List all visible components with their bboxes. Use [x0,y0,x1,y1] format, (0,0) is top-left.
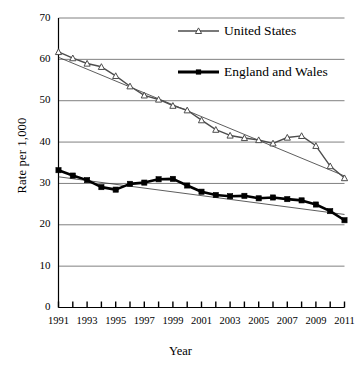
data-point-1-2007 [285,197,290,202]
y-axis-title: Rate per 1,000 [15,86,30,226]
legend-label-england-and-wales: England and Wales [224,64,328,80]
y-tick-label-20: 20 [17,217,51,229]
data-point-1-2005 [256,196,261,201]
chart-canvas [0,0,361,368]
data-point-1-1998 [156,177,161,182]
data-point-1-2001 [199,189,204,194]
x-tick-label-2011: 2011 [325,315,361,326]
y-tick-label-0: 0 [17,300,51,312]
data-point-1-2006 [270,195,275,200]
y-tick-label-50: 50 [17,93,51,105]
data-point-1-2000 [185,183,190,188]
data-point-1-2002 [213,192,218,197]
data-point-1-1992 [70,173,75,178]
data-point-1-1994 [99,185,104,190]
trendline-series-1 [59,177,345,215]
data-point-1-1991 [56,168,61,173]
y-tick-label-10: 10 [17,259,51,271]
data-point-0-1997 [141,92,147,98]
line-chart-figure: Rate per 1,000 Year 010203040506070 1991… [0,0,361,368]
data-point-0-1991 [55,49,61,55]
data-point-1-1999 [170,176,175,181]
y-tick-label-60: 60 [17,52,51,64]
data-point-1-2008 [299,198,304,203]
legend-label-united-states: United States [224,23,296,39]
x-axis-title: Year [0,344,361,359]
data-point-1-2009 [313,202,318,207]
data-point-1-1995 [113,187,118,192]
data-point-1-2003 [228,194,233,199]
legend-key-marker-england-and-wales [196,69,201,74]
y-tick-label-30: 30 [17,176,51,188]
y-tick-label-70: 70 [17,11,51,23]
data-point-1-1993 [85,178,90,183]
data-point-1-2010 [328,209,333,214]
series-line-1 [59,170,345,220]
data-point-1-1996 [127,181,132,186]
data-point-0-1995 [113,73,119,79]
data-point-1-1997 [142,180,147,185]
data-point-1-2004 [242,193,247,198]
data-point-1-2011 [342,218,347,223]
y-tick-label-40: 40 [17,135,51,147]
